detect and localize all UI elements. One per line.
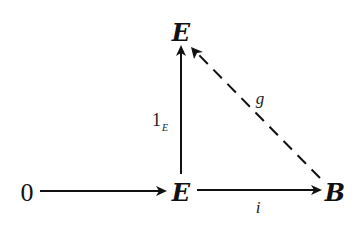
commutative-diagram: E 0 E B 1E i g — [0, 0, 357, 225]
label-identity: 1E — [152, 110, 168, 133]
node-b: B — [324, 178, 345, 207]
node-top-e: E — [171, 18, 191, 47]
label-g: g — [256, 89, 265, 108]
node-mid-e: E — [171, 178, 191, 207]
arrow-g-shaft — [197, 53, 320, 178]
label-i: i — [256, 198, 261, 217]
node-zero: 0 — [21, 178, 34, 207]
arrow-i — [197, 185, 322, 195]
arrow-identity — [176, 45, 186, 174]
arrow-zero-to-e — [40, 186, 167, 196]
arrow-g — [191, 47, 320, 178]
